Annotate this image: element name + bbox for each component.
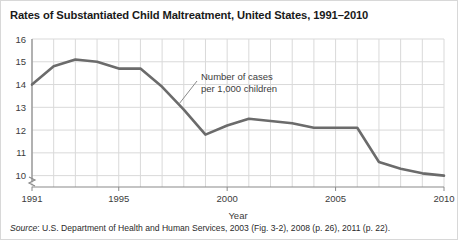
y-tick-label: 15: [15, 56, 26, 67]
series-annotation: Number of casesper 1,000 children: [179, 71, 277, 104]
x-tick-label: 1991: [21, 193, 42, 204]
annotation-line-2: per 1,000 children: [201, 83, 277, 94]
source-label: Source: [10, 223, 37, 233]
y-tick-label: 13: [15, 102, 26, 113]
source-note: Source: U.S. Department of Health and Hu…: [10, 223, 390, 233]
y-tick-label: 14: [15, 79, 26, 90]
line-chart-svg: 1011121314151619911995200020052010YearNu…: [1, 1, 458, 240]
y-tick-label: 10: [15, 170, 26, 181]
chart-figure: Rates of Substantiated Child Maltreatmen…: [0, 0, 458, 240]
x-tick-label: 2005: [325, 193, 346, 204]
y-tick-label: 11: [16, 147, 26, 158]
x-tick-label: 2010: [433, 193, 454, 204]
y-tick-label: 16: [15, 34, 26, 45]
y-tick-label: 12: [15, 125, 26, 136]
x-tick-label: 1995: [108, 193, 129, 204]
x-axis-tick-labels: 19911995200020052010: [21, 187, 454, 204]
y-axis-tick-labels: 10111213141516: [15, 34, 26, 182]
annotation-line-1: Number of cases: [201, 71, 273, 82]
axis-break-icon: [29, 177, 35, 186]
x-tick-label: 2000: [217, 193, 238, 204]
source-text: : U.S. Department of Health and Human Se…: [37, 223, 390, 233]
chart-plot-area: 1011121314151619911995200020052010YearNu…: [1, 1, 458, 240]
x-axis-title: Year: [228, 210, 247, 221]
